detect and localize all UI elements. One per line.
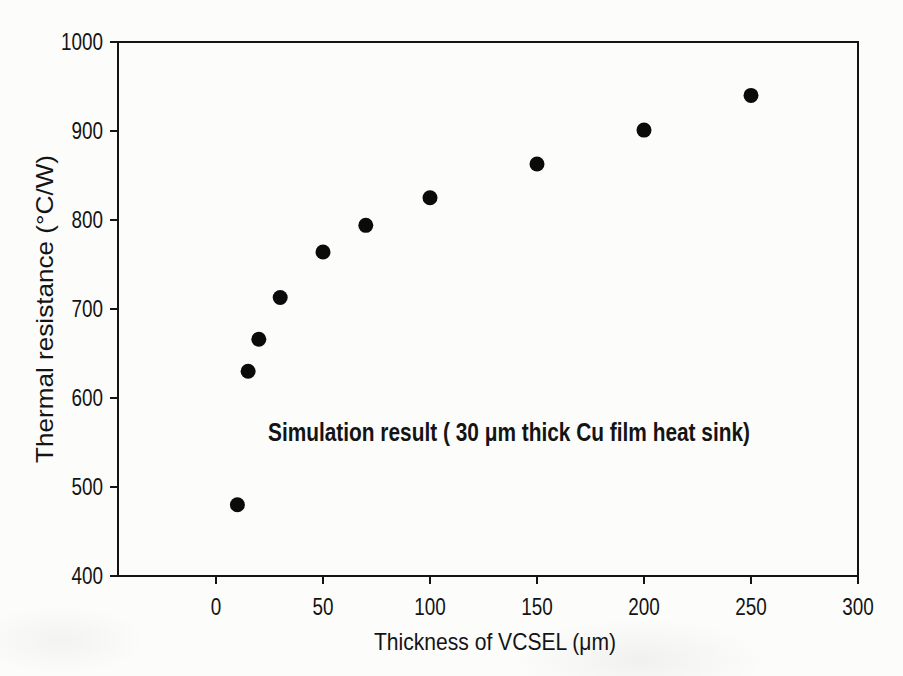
scatter-chart: 4005006007008009001000 05010015020025030… [0, 0, 903, 676]
y-tick-label: 700 [72, 296, 104, 322]
annotation-text: Simulation result ( 30 μm thick Cu film … [268, 418, 750, 446]
x-axis-title: Thickness of VCSEL (μm) [374, 628, 616, 655]
data-point [316, 245, 331, 260]
x-tick-label: 200 [628, 594, 660, 620]
data-point [744, 88, 759, 103]
y-axis-ticks [110, 42, 118, 576]
data-point [423, 190, 438, 205]
data-point [241, 364, 256, 379]
y-tick-label: 400 [72, 563, 104, 589]
data-point [637, 123, 652, 138]
data-points [230, 88, 759, 512]
x-axis-ticks [216, 576, 858, 584]
data-point [358, 218, 373, 233]
y-tick-label: 800 [72, 207, 104, 233]
y-tick-label: 500 [72, 474, 104, 500]
x-tick-label: 50 [313, 594, 334, 620]
x-tick-label: 0 [211, 594, 222, 620]
x-tick-label: 150 [521, 594, 553, 620]
x-axis-tick-labels: 050100150200250300 [211, 594, 874, 620]
x-tick-label: 250 [735, 594, 767, 620]
x-tick-label: 300 [842, 594, 874, 620]
y-axis-title: Thermal resistance (°C/W) [31, 155, 58, 463]
y-tick-label: 900 [72, 118, 104, 144]
data-point [230, 497, 245, 512]
chart-figure: 4005006007008009001000 05010015020025030… [0, 0, 903, 676]
data-point [251, 332, 266, 347]
y-tick-label: 600 [72, 385, 104, 411]
y-axis-tick-labels: 4005006007008009001000 [61, 29, 103, 589]
plot-frame [118, 42, 858, 576]
data-point [273, 290, 288, 305]
y-tick-label: 1000 [61, 29, 103, 55]
x-tick-label: 100 [414, 594, 446, 620]
data-point [530, 156, 545, 171]
